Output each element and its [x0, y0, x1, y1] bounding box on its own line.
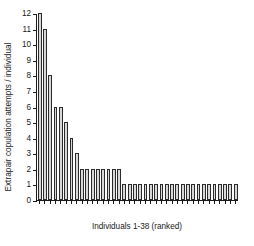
- bar: [175, 184, 179, 200]
- y-tick-label: 3: [26, 149, 31, 159]
- bar: [38, 13, 42, 200]
- bar: [128, 184, 132, 200]
- bar: [43, 29, 47, 200]
- x-tick-slot: [233, 201, 238, 204]
- bar-slot: [233, 13, 238, 200]
- y-tick-label: 5: [26, 118, 31, 128]
- x-tick-mark: [134, 201, 135, 204]
- x-tick-mark: [76, 201, 77, 204]
- bar: [144, 184, 148, 200]
- x-tick-mark: [172, 201, 173, 204]
- x-tick-mark: [219, 201, 220, 204]
- x-tick-mark: [108, 201, 109, 204]
- bar: [91, 169, 95, 200]
- bar: [117, 169, 121, 200]
- x-tick-mark: [87, 201, 88, 204]
- y-tick-label: 2: [26, 165, 31, 175]
- x-tick-mark: [209, 201, 210, 204]
- bar: [191, 184, 195, 200]
- bar: [107, 169, 111, 200]
- x-tick-mark: [103, 201, 104, 204]
- bar: [223, 184, 227, 200]
- bar: [138, 184, 142, 200]
- x-tick-mark: [97, 201, 98, 204]
- bar: [80, 169, 84, 200]
- x-tick-mark: [50, 201, 51, 204]
- plot-area: [36, 14, 238, 201]
- bar: [75, 153, 79, 200]
- x-tick-mark: [225, 201, 226, 204]
- x-tick-mark: [214, 201, 215, 204]
- x-tick-mark: [113, 201, 114, 204]
- bar: [48, 75, 52, 200]
- bar-series: [37, 13, 238, 200]
- bar: [218, 184, 222, 200]
- y-tick-label: 1: [26, 180, 31, 190]
- bar: [197, 184, 201, 200]
- bar: [154, 184, 158, 200]
- bar: [165, 184, 169, 200]
- x-tick-mark: [145, 201, 146, 204]
- bar: [213, 184, 217, 200]
- x-tick-mark: [235, 201, 236, 204]
- bar: [122, 184, 126, 200]
- y-axis-tick-labels: 0123456789101112: [16, 14, 36, 201]
- y-tick-label: 9: [26, 56, 31, 66]
- bar-chart-figure: Extrapair copulation attempts / individu…: [0, 0, 254, 246]
- y-tick-label: 7: [26, 87, 31, 97]
- x-tick-mark: [82, 201, 83, 204]
- y-tick-label: 10: [22, 40, 31, 50]
- bar: [70, 138, 74, 200]
- bar: [133, 184, 137, 200]
- x-axis-label: Individuals 1-38 (ranked): [36, 222, 238, 231]
- bar: [181, 184, 185, 200]
- y-tick-label: 12: [22, 9, 31, 19]
- x-tick-mark: [230, 201, 231, 204]
- bar: [234, 184, 238, 200]
- x-tick-mark: [39, 201, 40, 204]
- bar: [186, 184, 190, 200]
- y-axis-label: Extrapair copulation attempts / individu…: [2, 12, 16, 222]
- y-tick-label: 0: [26, 196, 31, 206]
- bar: [96, 169, 100, 200]
- bar: [64, 122, 68, 200]
- x-tick-mark: [71, 201, 72, 204]
- x-tick-mark: [177, 201, 178, 204]
- x-tick-mark: [150, 201, 151, 204]
- x-tick-mark: [198, 201, 199, 204]
- x-axis-tick-marks: [37, 201, 238, 204]
- bar: [101, 169, 105, 200]
- x-tick-mark: [193, 201, 194, 204]
- y-tick-label: 4: [26, 134, 31, 144]
- x-tick-mark: [66, 201, 67, 204]
- x-tick-mark: [161, 201, 162, 204]
- y-tick-label: 6: [26, 103, 31, 113]
- bar: [228, 184, 232, 200]
- x-tick-mark: [140, 201, 141, 204]
- bar: [149, 184, 153, 200]
- bar: [85, 169, 89, 200]
- y-tick-label: 11: [23, 25, 32, 35]
- x-tick-mark: [187, 201, 188, 204]
- y-tick-label: 8: [26, 71, 31, 81]
- x-tick-mark: [92, 201, 93, 204]
- bar: [112, 169, 116, 200]
- x-tick-mark: [55, 201, 56, 204]
- bar: [170, 184, 174, 200]
- x-tick-mark: [166, 201, 167, 204]
- x-tick-mark: [203, 201, 204, 204]
- bar: [59, 107, 63, 201]
- x-tick-mark: [124, 201, 125, 204]
- x-tick-mark: [119, 201, 120, 204]
- x-tick-mark: [44, 201, 45, 204]
- x-tick-mark: [129, 201, 130, 204]
- bar: [160, 184, 164, 200]
- bar: [207, 184, 211, 200]
- x-tick-mark: [156, 201, 157, 204]
- x-tick-mark: [60, 201, 61, 204]
- x-tick-mark: [182, 201, 183, 204]
- bar: [54, 107, 58, 201]
- bar: [202, 184, 206, 200]
